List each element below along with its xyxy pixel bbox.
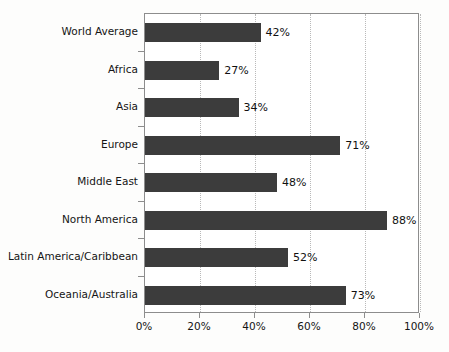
y-axis-labels: World AverageAfricaAsiaEuropeMiddle East… (0, 13, 449, 313)
x-axis-label: 20% (169, 320, 229, 332)
x-axis-tick (364, 313, 365, 318)
x-axis-tick (144, 313, 145, 318)
y-axis-label: Europe (0, 126, 138, 164)
x-axis-label: 60% (279, 320, 339, 332)
x-axis-label: 80% (334, 320, 394, 332)
x-axis: 0%20%40%60%80%100% (144, 313, 419, 352)
x-axis-tick (419, 313, 420, 318)
y-axis-label: North America (0, 201, 138, 239)
x-axis-label: 0% (114, 320, 174, 332)
y-axis-label: Asia (0, 88, 138, 126)
x-axis-label: 40% (224, 320, 284, 332)
x-axis-tick (309, 313, 310, 318)
y-axis-label: World Average (0, 13, 138, 51)
x-axis-tick (254, 313, 255, 318)
x-axis-label: 100% (389, 320, 449, 332)
y-axis-label: Oceania/Australia (0, 276, 138, 314)
y-axis-label: Middle East (0, 163, 138, 201)
x-axis-tick (199, 313, 200, 318)
bar-chart: 42%27%34%71%48%88%52%73% World AverageAf… (0, 0, 449, 352)
y-axis-label: Africa (0, 51, 138, 89)
y-axis-label: Latin America/Caribbean (0, 238, 138, 276)
